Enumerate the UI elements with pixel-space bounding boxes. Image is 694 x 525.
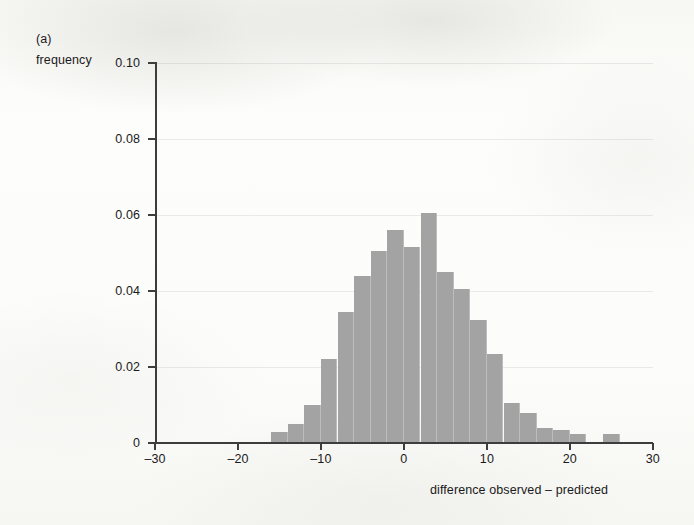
histogram-bar [487, 354, 504, 443]
histogram-bar [354, 276, 371, 443]
histogram-bar [304, 405, 321, 443]
x-tick-label: –20 [227, 452, 248, 466]
histogram-bar [288, 424, 305, 443]
y-tick-label: 0.04 [80, 284, 140, 298]
histogram-bar [271, 432, 288, 443]
histogram-bar [371, 251, 388, 443]
x-tick-mark [237, 443, 239, 450]
x-tick-mark [486, 443, 488, 450]
y-tick-mark [148, 366, 155, 368]
histogram-bar [537, 428, 554, 443]
histogram-bar [338, 312, 355, 443]
y-tick-label: 0.10 [80, 56, 140, 70]
x-tick-label: 30 [646, 452, 660, 466]
y-axis-line [155, 62, 157, 444]
histogram-bar [454, 289, 471, 443]
gridline [156, 63, 653, 64]
x-tick-mark [403, 443, 405, 450]
x-axis-title: difference observed – predicted [430, 483, 608, 497]
y-tick-mark [148, 214, 155, 216]
histogram-bar [470, 320, 487, 444]
y-tick-label: 0 [80, 436, 140, 450]
histogram-bar [437, 272, 454, 443]
histogram-bar [404, 247, 421, 443]
x-tick-mark [320, 443, 322, 450]
panel-label: (a) [36, 32, 52, 46]
histogram-bar [520, 413, 537, 443]
y-tick-mark [148, 138, 155, 140]
x-tick-mark [154, 443, 156, 450]
x-tick-label: 0 [400, 452, 407, 466]
histogram-bar [553, 430, 570, 443]
x-tick-label: 20 [563, 452, 577, 466]
x-tick-mark [652, 443, 654, 450]
x-tick-mark [569, 443, 571, 450]
y-tick-mark [148, 290, 155, 292]
y-tick-label: 0.02 [80, 360, 140, 374]
y-tick-label: 0.08 [80, 132, 140, 146]
histogram-bar [387, 230, 404, 443]
x-tick-label: –10 [310, 452, 331, 466]
y-tick-mark [148, 62, 155, 64]
gridline [156, 215, 653, 216]
gridline [156, 139, 653, 140]
x-tick-label: –30 [144, 452, 165, 466]
histogram-bar [321, 359, 338, 443]
y-tick-label: 0.06 [80, 208, 140, 222]
x-tick-label: 10 [480, 452, 494, 466]
histogram-bar [504, 403, 521, 443]
histogram-bar [421, 213, 438, 443]
histogram-chart: (a) frequency 00.020.040.060.080.10 –30–… [0, 0, 694, 525]
